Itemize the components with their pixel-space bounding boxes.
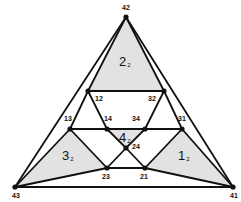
vertex-32	[161, 88, 166, 93]
vertex-label-31: 31	[178, 115, 186, 122]
vertex-23	[104, 165, 109, 170]
vertex-label-13: 13	[64, 115, 72, 122]
vertex-label-23: 23	[102, 173, 110, 180]
vertex-43	[12, 184, 17, 189]
edge-12-13	[70, 91, 88, 129]
shaded-regions	[15, 17, 233, 187]
vertex-label-41: 41	[230, 192, 238, 199]
vertex-12	[85, 88, 90, 93]
vertex-31	[179, 126, 184, 131]
vertex-42	[123, 14, 128, 19]
vertex-21	[142, 165, 147, 170]
vertex-41	[230, 184, 235, 189]
vertex-14	[104, 126, 109, 131]
edge-24-23	[107, 148, 126, 168]
vertex-label-21: 21	[140, 173, 148, 180]
vertex-34	[142, 126, 147, 131]
vertex-label-43: 43	[12, 192, 20, 199]
vertex-label-12: 12	[95, 95, 103, 102]
edge-32-31	[164, 91, 182, 129]
vertex-label-24: 24	[132, 143, 140, 150]
edge-24-21	[126, 148, 145, 168]
triangle-graph-diagram: 424341123213311434242321 22321242	[0, 0, 241, 202]
vertex-label-32: 32	[148, 95, 156, 102]
vertex-label-14: 14	[104, 115, 112, 122]
vertex-13	[67, 126, 72, 131]
vertex-24	[123, 145, 128, 150]
vertex-label-42: 42	[122, 4, 130, 11]
vertex-label-34: 34	[132, 115, 140, 122]
